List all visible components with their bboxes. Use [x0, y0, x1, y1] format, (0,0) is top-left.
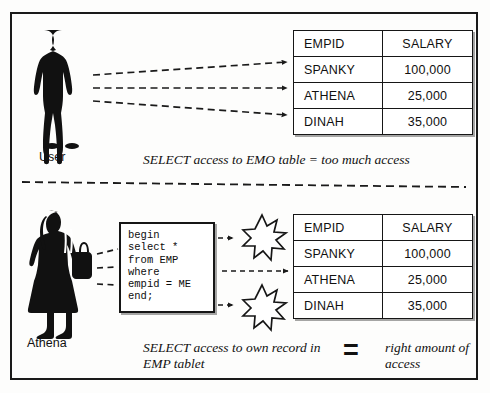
- table-row: SPANKY 100,000: [294, 241, 473, 267]
- cell-salary: 100,000: [383, 241, 473, 267]
- table-row: SPANKY 100,000: [294, 57, 473, 83]
- table-row: DINAH 35,000: [294, 109, 473, 135]
- cell-empid: DINAH: [294, 293, 383, 319]
- equals-sign: =: [343, 337, 359, 364]
- cell-salary: 100,000: [383, 57, 473, 83]
- emp-table-bottom: EMPID SALARY SPANKY 100,000 ATHENA 25,00…: [293, 214, 473, 319]
- actor-label-user: User: [39, 150, 65, 164]
- sql-code-box: begin select * from EMP where empid = ME…: [119, 222, 215, 313]
- caption-bottom-left: SELECT access to own record in EMP table…: [143, 340, 325, 372]
- table-row: DINAH 35,000: [294, 293, 473, 319]
- column-header-empid: EMPID: [294, 31, 383, 57]
- cell-empid: SPANKY: [294, 57, 383, 83]
- cell-empid: ATHENA: [294, 267, 383, 293]
- caption-bottom-right: right amount of access: [385, 340, 485, 372]
- cell-empid: DINAH: [294, 109, 383, 135]
- cell-empid: SPANKY: [294, 241, 383, 267]
- actor-label-athena: Athena: [27, 336, 67, 350]
- table-header-row: EMPID SALARY: [294, 31, 473, 57]
- table-row: ATHENA 25,000: [294, 83, 473, 109]
- cell-salary: 25,000: [383, 83, 473, 109]
- cell-salary: 25,000: [383, 267, 473, 293]
- caption-top-section: SELECT access to EMO table = too much ac…: [143, 152, 410, 168]
- cell-salary: 35,000: [383, 293, 473, 319]
- column-header-salary: SALARY: [383, 31, 473, 57]
- cell-empid: ATHENA: [294, 83, 383, 109]
- emp-table-top: EMPID SALARY SPANKY 100,000 ATHENA 25,00…: [293, 30, 473, 135]
- column-header-salary: SALARY: [383, 215, 473, 241]
- column-header-empid: EMPID: [294, 215, 383, 241]
- sql-code-text: begin select * from EMP where empid = ME…: [128, 229, 213, 303]
- table-row: ATHENA 25,000: [294, 267, 473, 293]
- diagram-canvas: User EMPID SALARY SPANKY 100,000 ATHENA …: [0, 0, 490, 393]
- table-header-row: EMPID SALARY: [294, 215, 473, 241]
- cell-salary: 35,000: [383, 109, 473, 135]
